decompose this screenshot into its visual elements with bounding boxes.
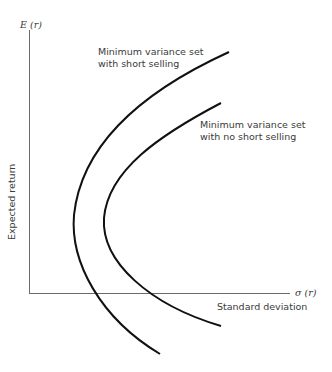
curve2-label-line2: with no short selling [200,131,296,143]
x-axis-title: Standard deviation [217,301,307,313]
x-axis-symbol: σ (r) [295,287,316,299]
curve1-label-line2: with short selling [98,58,179,70]
y-axis-title: Expected return [6,164,17,240]
y-axis-symbol: E (r) [20,19,42,31]
curve-with-short-selling [74,52,229,354]
curve1-label-line1: Minimum variance set [98,46,203,58]
curve2-label-line1: Minimum variance set [200,119,305,131]
